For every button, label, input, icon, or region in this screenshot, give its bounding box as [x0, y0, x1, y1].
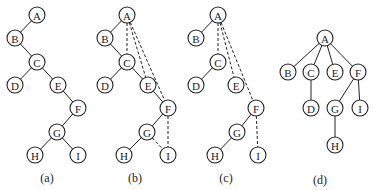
node-label: I — [166, 150, 170, 162]
node-b: B — [97, 30, 113, 46]
node-label: G — [331, 103, 339, 115]
node-label: E — [55, 80, 62, 92]
node-h: H — [27, 147, 43, 163]
node-label: C — [33, 57, 40, 69]
node-e: E — [228, 77, 244, 93]
node-label: B — [284, 67, 291, 79]
node-c: C — [29, 54, 45, 70]
node-label: B — [192, 33, 199, 45]
node-c: C — [210, 54, 226, 70]
node-label: D — [307, 103, 315, 115]
node-label: F — [253, 103, 259, 115]
node-d: D — [188, 77, 204, 93]
node-label: I — [358, 103, 362, 115]
node-g: G — [229, 124, 245, 140]
edge-f-i — [358, 80, 359, 100]
edge-g-h — [130, 138, 142, 150]
edge-c-e — [132, 68, 142, 79]
node-label: I — [76, 150, 80, 162]
node-label: F — [165, 103, 171, 115]
node-label: H — [31, 150, 39, 162]
node-h: H — [116, 147, 132, 163]
node-d: D — [303, 100, 319, 116]
edge-g-i — [62, 138, 72, 149]
node-label: A — [321, 33, 329, 45]
edge-b-c — [110, 44, 121, 56]
edge-a-b — [21, 21, 32, 32]
node-c: C — [303, 64, 319, 80]
node-label: H — [120, 150, 128, 162]
node-h: H — [327, 137, 343, 153]
node-g: G — [49, 124, 65, 140]
node-label: G — [53, 127, 61, 139]
node-d: D — [7, 77, 23, 93]
edge-a-b — [202, 21, 213, 32]
node-b: B — [7, 30, 23, 46]
edge-f-g — [339, 79, 353, 102]
edge-e-f — [63, 91, 73, 102]
diagram-d-edges — [294, 43, 360, 137]
node-g: G — [327, 100, 343, 116]
node-e: E — [327, 64, 343, 80]
node-a: A — [317, 30, 333, 46]
node-label: B — [101, 33, 108, 45]
edge-c-d — [111, 68, 122, 79]
node-label: C — [214, 57, 221, 69]
caption-a: (a) — [40, 171, 53, 185]
edge-g-h — [221, 138, 232, 149]
tree-diagrams-canvas: ABCDEFGHIABCDEFGHIABCDEFGHIABCEFDGIH (a)… — [0, 0, 376, 190]
captions-layer: (a)(b)(c)(d) — [40, 171, 327, 187]
node-label: D — [101, 80, 109, 92]
node-label: A — [123, 10, 131, 22]
node-label: C — [123, 57, 130, 69]
node-i: I — [160, 147, 176, 163]
node-i: I — [250, 147, 266, 163]
node-label: G — [233, 127, 241, 139]
node-f: F — [70, 100, 86, 116]
edge-a-c — [314, 45, 322, 64]
node-d: D — [97, 77, 113, 93]
edge-f-g — [152, 114, 162, 126]
node-a: A — [210, 7, 226, 23]
edge-a-e — [327, 46, 332, 65]
node-i: I — [70, 147, 86, 163]
node-f: F — [350, 64, 366, 80]
node-g: G — [139, 124, 155, 140]
node-label: E — [233, 80, 240, 92]
edge-f-g — [62, 114, 72, 126]
edge-c-d — [202, 68, 213, 79]
node-label: D — [11, 80, 19, 92]
node-label: E — [145, 80, 152, 92]
caption-d: (d) — [313, 173, 327, 187]
edge-a-b — [111, 21, 122, 32]
node-label: A — [33, 10, 41, 22]
node-i: I — [352, 100, 368, 116]
edge-g-h — [41, 138, 52, 149]
node-label: A — [214, 10, 222, 22]
node-f: F — [160, 100, 176, 116]
node-label: D — [192, 80, 200, 92]
node-label: H — [331, 140, 339, 152]
node-f: F — [248, 100, 264, 116]
nodes-layer: ABCDEFGHIABCDEFGHIABCDEFGHIABCEFDGIH — [7, 7, 368, 163]
edge-f-i — [256, 116, 257, 147]
node-label: G — [143, 127, 151, 139]
node-c: C — [119, 54, 135, 70]
node-label: E — [332, 67, 339, 79]
edge-c-d — [21, 68, 32, 79]
edge-a-b — [294, 43, 319, 66]
node-label: B — [11, 33, 18, 45]
node-label: F — [75, 103, 81, 115]
edge-a-f — [331, 44, 353, 67]
node-label: F — [355, 67, 361, 79]
edge-b-c — [20, 44, 31, 56]
edge-c-e — [42, 68, 52, 79]
caption-b: (b) — [128, 171, 142, 185]
edge-f-g — [242, 114, 251, 125]
node-b: B — [280, 64, 296, 80]
node-e: E — [140, 77, 156, 93]
node-label: C — [307, 67, 314, 79]
node-label: I — [256, 150, 260, 162]
node-a: A — [119, 7, 135, 23]
node-label: H — [211, 150, 219, 162]
